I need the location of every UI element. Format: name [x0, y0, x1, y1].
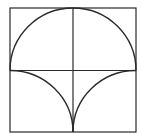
bottom-right-arc — [73, 71, 136, 133]
geometry-diagram — [0, 0, 142, 134]
bottom-left-arc — [10, 71, 73, 133]
